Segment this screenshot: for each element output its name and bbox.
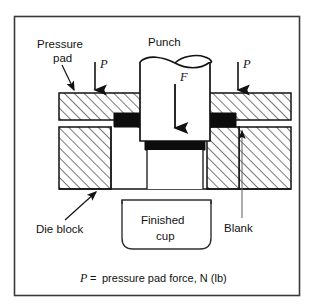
die-block-label: Die block	[36, 223, 84, 235]
pressure-pad-label-line1: Pressure	[37, 38, 83, 50]
blank-label: Blank	[224, 222, 253, 234]
deep-drawing-diagram: Pressure pad Punch F P P Die block Blank…	[0, 0, 316, 308]
punch-label: Punch	[148, 36, 181, 48]
force-f-label: F	[179, 70, 188, 84]
pressure-right-label: P	[242, 57, 251, 71]
caption-symbol: P	[79, 271, 88, 285]
die-block-left	[59, 127, 111, 189]
finished-cup-label-line1: Finished	[141, 214, 184, 226]
caption-equals: =	[90, 272, 96, 284]
pressure-pad-label-line2: pad	[53, 52, 72, 64]
caption-text: pressure pad force, N (lb)	[102, 272, 227, 284]
die-block-right-inner	[207, 127, 239, 189]
pressure-left-label: P	[99, 57, 108, 71]
finished-cup-label-line2: cup	[156, 230, 175, 242]
die-block-right	[239, 127, 291, 189]
diagram-canvas: Pressure pad Punch F P P Die block Blank…	[0, 0, 316, 308]
die-cavity	[147, 150, 203, 189]
